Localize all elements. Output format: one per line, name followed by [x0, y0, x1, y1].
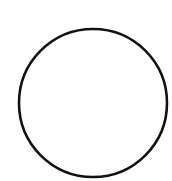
circle-diagram: [0, 0, 172, 181]
circle-outline: [19, 29, 167, 177]
diagram-canvas: [0, 0, 172, 181]
